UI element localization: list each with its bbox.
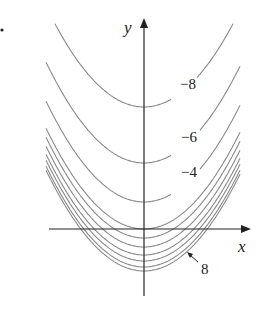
bullet-dot — [0, 28, 3, 31]
level-curve — [46, 160, 240, 261]
level-curve — [46, 154, 240, 255]
level-curve — [46, 146, 240, 247]
x-axis-arrow-icon — [241, 225, 251, 233]
y-axis-label: y — [122, 18, 132, 37]
level-label-minus-4: −4 — [181, 164, 197, 180]
level-label-minus-8: −8 — [180, 76, 196, 92]
level-curves — [46, 24, 240, 271]
level-curve — [46, 62, 240, 163]
level-label-8: 8 — [201, 261, 209, 277]
y-axis-arrow-icon — [140, 18, 148, 28]
level-label-minus-6: −6 — [181, 129, 197, 145]
level-curves-plot: y x −8 −6 −4 8 — [0, 0, 264, 314]
x-axis-label: x — [237, 237, 246, 256]
